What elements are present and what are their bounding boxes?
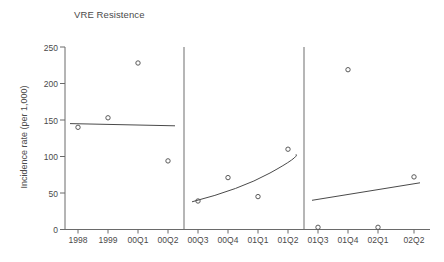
fit-line-segment-1 bbox=[70, 124, 175, 126]
data-point-02q2 bbox=[412, 175, 416, 179]
data-point-01q4 bbox=[346, 68, 350, 72]
fit-line-segment-2 bbox=[192, 154, 296, 202]
data-point-01q1 bbox=[256, 194, 260, 198]
data-point-01q2 bbox=[286, 147, 290, 151]
fit-line-segment-3 bbox=[312, 183, 420, 201]
data-point-00q4 bbox=[226, 175, 230, 179]
panel-dividers bbox=[184, 47, 304, 229]
segment-2-group bbox=[192, 147, 296, 203]
data-point-1999 bbox=[106, 116, 110, 120]
segment-1-group bbox=[70, 61, 175, 163]
chart-figure: VRE Resistence Incidence rate (per 1,000… bbox=[0, 0, 444, 262]
segment-3-group bbox=[312, 68, 420, 230]
data-point-01q3 bbox=[316, 225, 320, 229]
plot-area bbox=[0, 0, 444, 262]
data-point-1998 bbox=[76, 125, 80, 129]
data-point-00q2 bbox=[166, 159, 170, 163]
data-point-02q1 bbox=[376, 225, 380, 229]
axes bbox=[60, 47, 430, 234]
data-point-00q1 bbox=[136, 61, 140, 65]
